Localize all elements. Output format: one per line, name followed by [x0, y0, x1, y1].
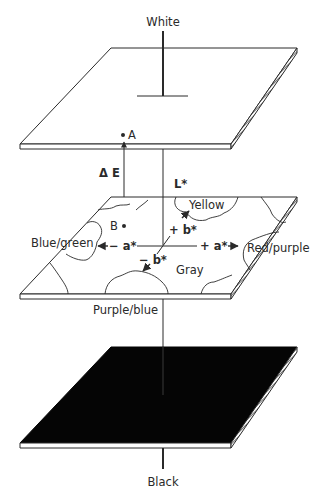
black-plane [20, 347, 297, 448]
black-pole-label: Black [147, 475, 178, 489]
gray-label: Gray [176, 263, 204, 277]
l-axis-label: L* [174, 177, 187, 191]
delta-e-label: Δ E [99, 166, 120, 180]
point-b-dot [122, 224, 126, 228]
purple-blue-label: Purple/blue [93, 303, 158, 317]
point-b-label: B [110, 219, 118, 233]
cielab-diagram: White A Δ E L* B − a* + a* [0, 0, 319, 495]
red-purple-label: Red/purple [247, 241, 310, 255]
point-a-dot [121, 133, 125, 137]
point-a-label: A [128, 128, 136, 142]
minus-a-label: − a* [109, 239, 136, 253]
yellow-label: Yellow [188, 198, 224, 212]
white-plane [20, 48, 297, 149]
minus-b-label: − b* [139, 253, 167, 267]
blue-green-label: Blue/green [31, 236, 94, 250]
white-pole-label: White [146, 15, 179, 29]
plus-a-label: + a* [200, 239, 227, 253]
plus-b-label: + b* [169, 223, 197, 237]
